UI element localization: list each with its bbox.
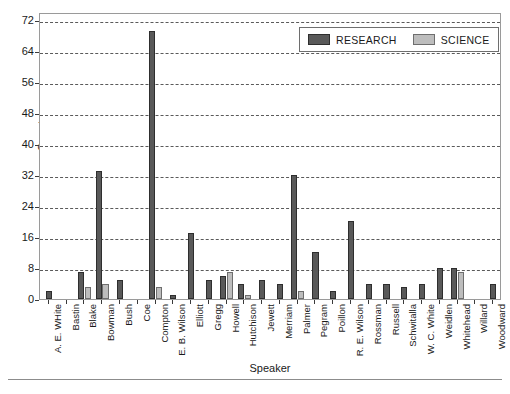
legend-label: RESEARCH [336,34,397,46]
gridline [40,53,500,54]
bar-science [458,272,464,299]
bar-research [149,31,155,299]
x-axis-tick-label: Blake [87,304,98,328]
bar-research [117,280,123,299]
bar-research [419,284,425,300]
bar-science [298,291,304,299]
bar-science [85,287,91,299]
gridline [40,270,500,271]
gridline [40,22,500,23]
bar-research [383,284,389,300]
x-axis-tick-labels: A. E. WHiteBastinBlakeBowmanBushCoeCompt… [39,304,501,360]
bar-research [46,291,52,299]
x-axis-tick-label: Howell [230,304,241,333]
y-axis-tick-label: 56 [6,76,34,88]
x-axis-tick-label: Bowman [105,304,116,341]
bar-science [156,287,162,299]
x-axis-tick-label: Willard [478,304,489,333]
bar-research [238,284,244,300]
bar-research [206,280,212,299]
y-axis-tick-label: 24 [6,200,34,212]
y-axis-tick [35,207,39,208]
gridline [40,84,500,85]
x-axis-tick-label: E. B. Wilson [176,304,187,356]
bar-science [227,272,233,299]
bar-research [96,171,102,299]
chart-legend: RESEARCHSCIENCE [299,27,499,52]
y-axis-tick-label: 16 [6,231,34,243]
bar-research [291,175,297,299]
y-axis-tick-label: 40 [6,138,34,150]
x-axis-tick-label: Compton [159,304,170,343]
x-axis-tick-label: A. E. WHite [52,304,63,353]
x-axis-tick-label: Weidlen [443,304,454,338]
x-axis-tick-label: R. E. Wilson [354,304,365,356]
x-axis-tick-label: Poillon [336,304,347,333]
y-axis-tick [35,238,39,239]
bar-research [330,291,336,299]
bar-research [188,233,194,299]
x-axis-tick-label: Jewett [265,304,276,331]
gridline [40,239,500,240]
plot-frame [39,13,501,300]
bar-research [437,268,443,299]
bar-research [451,268,457,299]
y-axis-tick [35,269,39,270]
gridline [40,177,500,178]
x-axis-tick-label: Hutchison [247,304,258,346]
legend-swatch-research-icon [308,34,330,45]
y-axis-tick [35,176,39,177]
bar-research [401,287,407,299]
bar-research [366,284,372,300]
y-axis-tick [35,83,39,84]
y-axis-tick [35,52,39,53]
x-axis-tick-label: Schwitalla [407,304,418,347]
legend-entry-science: SCIENCE [413,34,490,46]
legend-swatch-science-icon [413,34,435,45]
y-axis-tick-label: 32 [6,169,34,181]
x-axis-tick-label: Elliott [194,304,205,327]
y-axis-tick [35,21,39,22]
gridline [40,146,500,147]
legend-label: SCIENCE [441,34,490,46]
legend-entry-research: RESEARCH [308,34,397,46]
bottom-divider [8,379,502,380]
y-axis-tick-label: 8 [6,262,34,274]
x-axis-tick-label: Rossman [372,304,383,344]
bar-research [277,284,283,300]
bar-chart: Count 081624324048566472 A. E. WHiteBast… [0,0,510,394]
x-axis-tick-label: Pegram [318,304,329,337]
x-axis-tick-label: W. C. White [425,304,436,354]
bar-research [170,295,176,299]
gridline [40,115,500,116]
y-axis-tick [35,145,39,146]
x-axis-tick-label: Coe [141,304,152,321]
bar-research [220,276,226,299]
y-axis-tick-label: 64 [6,45,34,57]
y-axis-tick [35,114,39,115]
bar-research [259,280,265,299]
y-axis-tick-label: 48 [6,107,34,119]
x-axis-tick-label: Bush [123,304,134,326]
bar-science [245,295,251,299]
bar-research [490,284,496,300]
bar-research [348,221,354,299]
plot-area [40,14,500,299]
x-axis-tick-label: Russell [390,304,401,335]
x-axis-tick-label: Palmer [301,304,312,334]
x-axis-tick-label: Woodward [496,304,507,349]
x-axis-tick-label: Whitehead [461,304,472,349]
y-axis-tick-label: 0 [6,293,34,305]
x-axis-tick-label: Gregg [212,304,223,330]
x-axis-tick-label: Merriam [283,304,294,339]
x-axis-title: Speaker [39,362,501,374]
bar-research [312,252,318,299]
x-axis-tick-label: Bastin [70,304,81,330]
bar-science [102,284,108,300]
gridline [40,208,500,209]
bar-research [78,272,84,299]
y-axis-tick-label: 72 [6,14,34,26]
